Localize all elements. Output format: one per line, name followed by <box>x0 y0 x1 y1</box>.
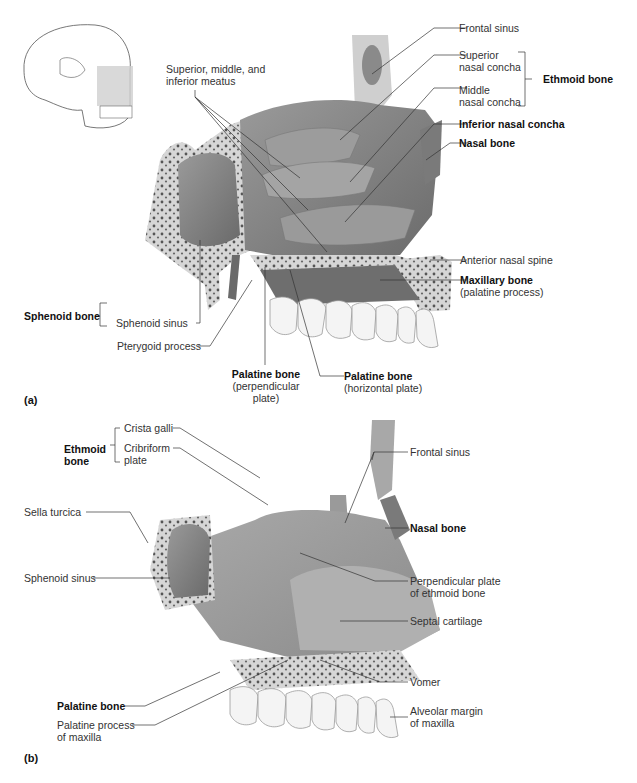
label-middle-concha: Middle nasal concha <box>459 84 521 108</box>
label-sphenoid-sinus-b: Sphenoid sinus <box>24 572 96 584</box>
label-frontal-sinus-b: Frontal sinus <box>410 446 470 458</box>
panel-tag-b: (b) <box>24 752 38 764</box>
panel-tag-a: (a) <box>24 394 37 406</box>
label-perp-plate-line2: of ethmoid bone <box>410 587 500 599</box>
label-pterygoid-process: Pterygoid process <box>117 340 201 352</box>
label-cribriform-line1: Cribriform <box>124 442 170 454</box>
label-ethmoid-b-line2: bone <box>64 455 106 467</box>
label-ethmoid-bone-a: Ethmoid bone <box>543 73 613 85</box>
label-palatine-perp-sub-line2: plate) <box>228 392 304 404</box>
label-palatine-bone-b: Palatine bone <box>57 700 125 712</box>
nasal-cavity-figure: Superior, middle, and inferior meatus Fr… <box>0 0 637 783</box>
label-anterior-nasal-spine: Anterior nasal spine <box>460 254 553 266</box>
label-palatine-horizontal: Palatine bone <box>344 370 412 382</box>
label-palatine-perpendicular-sub: (perpendicular plate) <box>228 380 304 404</box>
label-alveolar-margin: Alveolar margin of maxilla <box>410 705 483 729</box>
label-nasal-bone-b: Nasal bone <box>410 522 466 534</box>
label-ethmoid-bone-b: Ethmoid bone <box>64 443 106 467</box>
label-crista-galli: Crista galli <box>124 422 173 434</box>
label-ethmoid-b-line1: Ethmoid <box>64 443 106 455</box>
label-maxillary-sub: (palatine process) <box>460 286 543 298</box>
label-perpendicular-plate: Perpendicular plate of ethmoid bone <box>410 575 500 599</box>
skull-inset <box>24 25 133 128</box>
label-superior-concha-line1: Superior <box>459 49 521 61</box>
label-superior-concha-line2: nasal concha <box>459 61 521 73</box>
label-palatine-perp-sub-line1: (perpendicular <box>228 380 304 392</box>
label-sphenoid-sinus-a: Sphenoid sinus <box>116 317 188 329</box>
label-meatus-line1: Superior, middle, and <box>166 63 265 75</box>
label-cribriform-plate: Cribriform plate <box>124 442 170 466</box>
label-palatine-perpendicular: Palatine bone <box>228 368 304 380</box>
label-sella-turcica: Sella turcica <box>24 506 81 518</box>
label-inferior-concha: Inferior nasal concha <box>459 118 565 130</box>
label-alveolar-line1: Alveolar margin <box>410 705 483 717</box>
label-palatine-process: Palatine process of maxilla <box>57 719 135 743</box>
label-frontal-sinus-a: Frontal sinus <box>459 22 519 34</box>
label-superior-concha: Superior nasal concha <box>459 49 521 73</box>
label-septal-cartilage: Septal cartilage <box>410 615 482 627</box>
label-alveolar-line2: of maxilla <box>410 717 483 729</box>
label-middle-concha-line1: Middle <box>459 84 521 96</box>
label-nasal-bone-a: Nasal bone <box>459 137 515 149</box>
label-meatus-line2: inferior meatus <box>166 75 265 87</box>
label-middle-concha-line2: nasal concha <box>459 96 521 108</box>
label-cribriform-line2: plate <box>124 454 170 466</box>
label-maxillary-bone: Maxillary bone <box>460 274 533 286</box>
label-vomer: Vomer <box>410 676 440 688</box>
label-perp-plate-line1: Perpendicular plate <box>410 575 500 587</box>
label-meatus: Superior, middle, and inferior meatus <box>166 63 265 87</box>
label-sphenoid-bone: Sphenoid bone <box>24 310 100 322</box>
label-palatine-process-line1: Palatine process <box>57 719 135 731</box>
label-palatine-horizontal-sub: (horizontal plate) <box>344 382 422 394</box>
nasal-septum-illustration <box>150 420 440 738</box>
label-palatine-process-line2: of maxilla <box>57 731 135 743</box>
